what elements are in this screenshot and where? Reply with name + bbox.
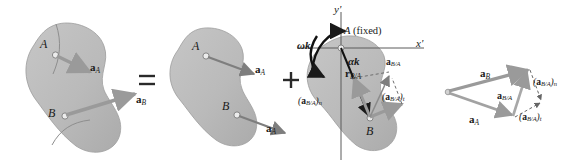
axis-label-y-prime: y': [334, 3, 341, 15]
point-label-B-panel1: B: [48, 106, 55, 121]
operator-equals: [139, 76, 155, 84]
label-aBA-n-panel3: (aB/A)n: [298, 96, 322, 106]
operator-plus: [283, 72, 299, 88]
point-label-B-panel3: B: [366, 124, 373, 139]
label-a-A-panel4: aA: [469, 113, 479, 127]
label-aBA-n-panel4: (aB/A)n: [533, 77, 557, 87]
point-label-A-panel1: A: [40, 37, 47, 52]
label-a-BA-panel4: aB/A: [497, 90, 512, 101]
point-label-A-fixed: AA (fixed) (fixed): [344, 25, 382, 36]
panel-vector-polygon: [445, 70, 541, 117]
label-a-B-panel4: aB: [480, 67, 490, 81]
label-aBA-t-panel3: (aB/A)t: [382, 92, 405, 102]
vector-label-a-A-bottom-panel2: aA: [266, 122, 276, 136]
rigid-body-shape-2: [170, 28, 257, 146]
label-aBA-t-panel4: (aB/A)t: [519, 112, 542, 122]
vector-label-a-A-panel1: aA: [90, 61, 100, 75]
axis-label-x-prime: x': [416, 37, 423, 49]
label-omega-k: ωk: [297, 39, 310, 51]
kinematics-figure: [0, 0, 572, 167]
point-label-A-panel2: A: [192, 39, 199, 54]
label-alpha-k: αk: [348, 55, 360, 67]
vector-label-a-B-panel1: aB: [136, 93, 146, 107]
vector-a-BA-4: [513, 72, 527, 116]
point-label-B-panel2: B: [222, 99, 229, 114]
label-aBA-panel3: aB/A: [386, 57, 400, 67]
label-r-B-over-A: rB/A: [345, 67, 361, 81]
vector-label-a-A-top-panel2: aA: [255, 63, 265, 77]
